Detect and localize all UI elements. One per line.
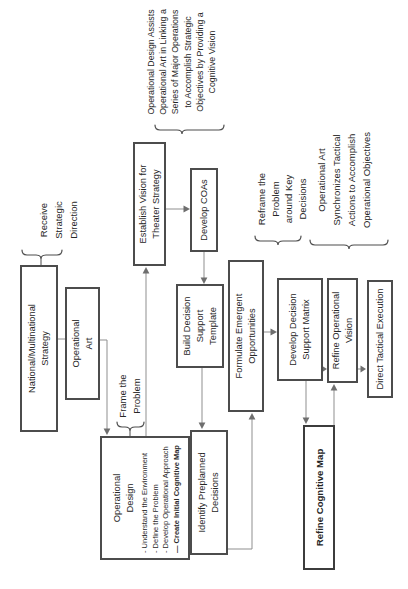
box-develop-decision-support-matrix: Develop Decision Support Matrix [277, 278, 323, 381]
label-line: Operational Objectives [359, 132, 374, 228]
box-label-line: Formulate Emergent [233, 294, 246, 379]
label-line: Actions to Accomplish [344, 134, 359, 226]
box-label-line: Theater Strategy [150, 169, 163, 238]
arrow-coas-to-dst [201, 252, 208, 284]
box-label-line: Establish Vision for [137, 165, 150, 244]
box-build-decision-support-template: Build Decision Support Template [176, 284, 224, 368]
box-label-line: Refine Cognitive Map [313, 449, 326, 547]
box-title-line: Operational [110, 474, 123, 522]
box-identify-preplanned-decisions: Identify Preplanned Decisions [190, 430, 228, 555]
brace-receive-strategic-direction [22, 250, 62, 265]
bullet-item: - Understand the Environment [140, 440, 151, 553]
label-line: Strategic [51, 201, 66, 239]
arrow-art-to-design [100, 340, 110, 435]
diagram-viewport: National/Multinational Strategy Operatio… [0, 0, 408, 589]
brace-reframe-problem [255, 236, 301, 245]
arrow-preplanned-to-emergent [228, 413, 255, 549]
box-title-line: Design [123, 483, 136, 512]
brace-art-synchronizes [310, 240, 388, 249]
arrow-refine-vision-to-tactical [358, 366, 366, 373]
label-line: Frame the [116, 374, 130, 417]
bullet-item: - Define the Problem [151, 440, 162, 553]
brace-frame-the-problem [117, 422, 144, 436]
arrow-vision-to-coas [166, 206, 190, 213]
label-line: Decisions [296, 178, 310, 219]
bullet-item: - Develop Operational Approach [161, 440, 172, 553]
label-line: around Key [282, 175, 296, 224]
box-refine-cognitive-map: Refine Cognitive Map [303, 425, 335, 570]
label-design-assists-operational-art: Operational Design Assists Operational A… [145, 3, 218, 121]
box-label-line: Opportunities [246, 308, 259, 363]
brace-design-assists [155, 125, 224, 134]
label-line: Problem [269, 181, 283, 216]
label-line: Direction [66, 201, 81, 239]
arrow-emergent-to-dsm [264, 329, 277, 336]
box-label-line: Develop COAs [198, 179, 211, 241]
box-label-line: Direct Tactical Execution [374, 288, 387, 389]
box-develop-coas: Develop COAs [190, 168, 218, 252]
box-operational-design: Operational Design - Understand the Envi… [100, 436, 190, 560]
box-label-line: Develop Decision [287, 293, 300, 365]
box-label-line: Identify Preplanned [196, 452, 209, 532]
arrow-cognitive-map-to-refine-vision [331, 384, 338, 425]
box-establish-vision: Establish Vision for Theater Strategy [133, 142, 166, 266]
box-label-line: National/Multinational [26, 304, 39, 393]
box-direct-tactical-execution: Direct Tactical Execution [367, 280, 393, 398]
box-label-line: Support [194, 310, 207, 343]
bullet-item: — Create Initial Cognitive Map [172, 440, 183, 553]
label-line: Operational Design Assists [145, 9, 157, 114]
box-label-line: Strategy [39, 331, 52, 366]
box-label-line: Vision [343, 318, 356, 343]
label-line: Operational Art in Linking a [157, 9, 169, 115]
box-national-multinational-strategy: National/Multinational Strategy [20, 265, 58, 432]
box-label-line: Build Decision [181, 297, 194, 356]
box-operational-art: Operational Art [65, 287, 100, 400]
label-line: Operational Art [314, 148, 329, 211]
label-line: Cognitive Vision [206, 31, 218, 94]
design-bullet-list: - Understand the Environment - Define th… [140, 438, 182, 558]
label-art-synchronizes-tactical: Operational Art Synchronizes Tactical Ac… [314, 121, 374, 239]
label-reframe-the-problem: Reframe the Problem around Key Decisions [255, 161, 309, 237]
box-formulate-emergent-opportunities: Formulate Emergent Opportunities [228, 260, 264, 412]
box-refine-operational-vision: Refine Operational Vision [327, 278, 358, 383]
label-line: Series of Major Operations [169, 10, 181, 115]
label-receive-strategic-direction: Receive Strategic Direction [36, 189, 81, 251]
arrow-dst-to-preplanned [199, 368, 206, 429]
box-label-line: Template [207, 307, 220, 345]
label-line: Problem [130, 378, 144, 413]
label-line: to Accomplish Strategic [182, 16, 194, 107]
box-label-line: Decisions [209, 472, 222, 512]
box-label-line: Refine Operational [330, 292, 343, 370]
arrow-dsm-to-cognitive-map [303, 381, 310, 424]
box-label-line: Support Matrix [300, 299, 313, 359]
label-line: Receive [36, 203, 51, 237]
box-label-line: Art [83, 338, 96, 350]
label-line: Objectives by Providing a [194, 12, 206, 111]
label-line: Reframe the [255, 173, 269, 225]
label-line: Synchronizes Tactical [329, 134, 344, 225]
label-frame-the-problem: Frame the Problem [116, 369, 144, 423]
box-label-line: Operational [70, 319, 83, 367]
flowchart-canvas: National/Multinational Strategy Operatio… [0, 0, 408, 589]
